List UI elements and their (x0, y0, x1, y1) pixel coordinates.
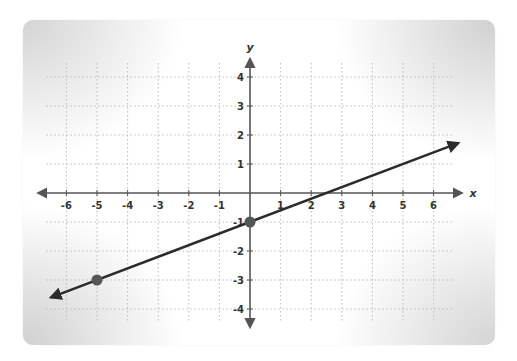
graph-card: -6-5-4-3-2-11234564321-1-2-3-4xy (23, 20, 495, 345)
y-tick-label: -3 (233, 275, 244, 286)
x-tick-label: -5 (91, 200, 102, 211)
y-tick-label: 4 (237, 72, 244, 83)
y-tick-label: -2 (233, 246, 244, 257)
x-tick-label: 2 (308, 200, 315, 211)
y-tick-label: 1 (237, 159, 244, 170)
x-tick-label: -4 (122, 200, 133, 211)
x-tick-label: -2 (183, 200, 194, 211)
x-tick-label: 5 (400, 200, 407, 211)
coordinate-plane: -6-5-4-3-2-11234564321-1-2-3-4xy (23, 20, 495, 345)
y-axis-label: y (246, 41, 254, 54)
x-tick-label: -3 (153, 200, 164, 211)
plotted-point (92, 275, 103, 286)
x-tick-label: 6 (430, 200, 437, 211)
y-tick-label: 2 (237, 130, 244, 141)
x-tick-label: -1 (214, 200, 225, 211)
x-tick-label: -6 (61, 200, 72, 211)
y-tick-label: 3 (237, 101, 244, 112)
x-tick-label: 3 (338, 200, 345, 211)
x-axis-label: x (469, 187, 478, 200)
plotted-point (245, 217, 256, 228)
y-tick-label: -4 (233, 304, 244, 315)
x-tick-label: 4 (369, 200, 376, 211)
